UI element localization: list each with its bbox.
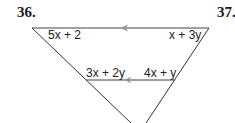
label-5x-plus-2: 5x + 2: [48, 28, 81, 42]
label-3x-plus-2y: 3x + 2y: [86, 66, 125, 80]
label-x-plus-3y: x + 3y: [169, 28, 201, 42]
triangle-diagram: [0, 0, 235, 123]
label-4x-plus-y: 4x + y: [144, 66, 176, 80]
